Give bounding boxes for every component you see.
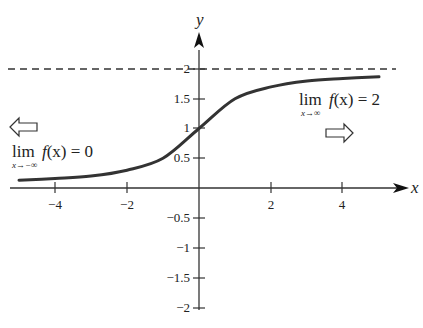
svg-text:lim f(x) = 2: lim f(x) = 2 bbox=[299, 90, 380, 109]
func-arg: (x) = 0 bbox=[47, 142, 93, 161]
x-tick-label: −4 bbox=[48, 197, 62, 212]
lim-text: lim bbox=[12, 142, 35, 161]
y-tick-label: 1.5 bbox=[174, 91, 190, 106]
y-tick-label: −1 bbox=[176, 240, 190, 255]
y-tick-label: −0.5 bbox=[166, 210, 190, 225]
y-tick-label: −1.5 bbox=[166, 270, 190, 285]
lim-subscript: x→−∞ bbox=[11, 160, 37, 170]
y-tick-label: 2 bbox=[184, 61, 191, 76]
y-axis-arrow-icon bbox=[194, 32, 204, 48]
left-arrow-icon bbox=[10, 118, 37, 136]
right-limit-annotation: lim f(x) = 2 x→∞ bbox=[299, 90, 380, 142]
y-axis-label: y bbox=[194, 10, 204, 29]
lim-subscript: x→∞ bbox=[300, 108, 320, 118]
x-tick-label: −2 bbox=[120, 197, 134, 212]
x-axis-label: x bbox=[410, 178, 419, 197]
y-tick-label: 0.5 bbox=[174, 150, 190, 165]
left-limit-annotation: lim f(x) = 0 x→−∞ bbox=[10, 118, 93, 170]
svg-text:lim f(x) = 0: lim f(x) = 0 bbox=[12, 142, 93, 161]
func-arg: (x) = 2 bbox=[334, 90, 380, 109]
y-axis: y 2 1.5 1 0.5 −0.5 −1 −1.5 −2 bbox=[166, 10, 205, 315]
sigmoid-limit-chart: x −4 −2 2 4 y 2 1.5 1 0.5 −0.5 − bbox=[0, 0, 423, 328]
lim-text: lim bbox=[299, 90, 322, 109]
y-tick-label: −2 bbox=[176, 300, 190, 315]
x-tick-label: 2 bbox=[268, 197, 275, 212]
right-arrow-icon bbox=[326, 124, 353, 142]
y-tick-label: 1 bbox=[184, 120, 191, 135]
x-tick-label: 4 bbox=[339, 197, 346, 212]
x-axis: x −4 −2 2 4 bbox=[10, 178, 419, 212]
